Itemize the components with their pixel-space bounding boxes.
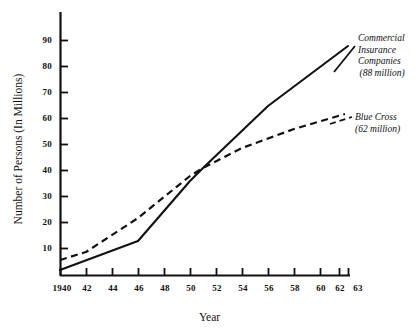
x-tick-label-58: 58 — [290, 283, 299, 293]
y-tick-label-80: 80 — [28, 61, 52, 71]
annotation-bluecross-line1: Blue Cross — [355, 112, 400, 124]
x-tick-label-54: 54 — [238, 283, 247, 293]
x-tick-label-60: 60 — [316, 283, 325, 293]
y-tick-label-40: 40 — [28, 165, 52, 175]
annotation-commercial-value: (88 million) — [358, 68, 405, 80]
series-line-bluecross — [60, 114, 345, 260]
series-annotation-commercial: Commercial Insurance Companies (88 milli… — [358, 33, 405, 79]
y-tick-label-50: 50 — [28, 139, 52, 149]
annotation-commercial-line2: Insurance — [358, 45, 405, 57]
x-tick-label-46: 46 — [134, 283, 143, 293]
chart-container: 90 80 70 60 50 40 30 20 10 1940 42 44 46… — [0, 0, 419, 336]
y-tick-label-90: 90 — [28, 35, 52, 45]
x-tick-label-62: 62 — [335, 283, 344, 293]
series-line-commercial — [60, 46, 348, 270]
annotation-commercial-line1: Commercial — [358, 33, 405, 45]
x-tick-label-44: 44 — [108, 283, 117, 293]
y-tick-label-30: 30 — [28, 191, 52, 201]
x-tick-label-42: 42 — [82, 283, 91, 293]
series-annotation-bluecross: Blue Cross (62 million) — [355, 112, 400, 135]
x-tick-label-52: 52 — [212, 283, 221, 293]
x-axis-title: Year — [0, 311, 419, 323]
annotation-bluecross-value: (62 million) — [355, 124, 400, 136]
x-tick-label-1940: 1940 — [53, 283, 72, 293]
x-tick-label-48: 48 — [160, 283, 169, 293]
x-tick-label-56: 56 — [264, 283, 273, 293]
x-axis-ticks — [61, 268, 349, 275]
y-tick-label-10: 10 — [28, 243, 52, 253]
x-tick-label-63: 63 — [353, 283, 362, 293]
annotation-commercial-line3: Companies — [358, 56, 405, 68]
y-axis-title: Number of Persons (In Millions) — [12, 49, 24, 249]
x-tick-label-50: 50 — [186, 283, 195, 293]
y-tick-label-70: 70 — [28, 87, 52, 97]
y-tick-label-20: 20 — [28, 217, 52, 227]
y-tick-label-60: 60 — [28, 113, 52, 123]
